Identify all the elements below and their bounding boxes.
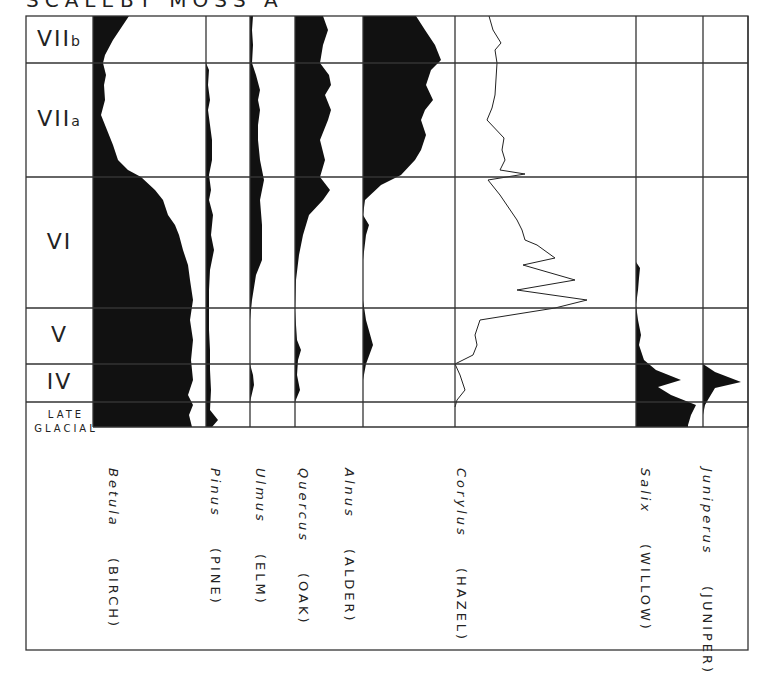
taxon-label-corylus: Corylus(HAZEL) xyxy=(454,468,469,642)
curve-pinus xyxy=(206,16,218,427)
taxon-label-pinus: Pinus(PINE) xyxy=(208,468,223,605)
taxon-label-salix: Salix(WILLOW) xyxy=(638,468,653,632)
zone-label-v: V xyxy=(26,322,93,347)
curve-juniperus xyxy=(703,16,741,427)
taxon-label-ulmus: Ulmus(ELM) xyxy=(253,468,268,606)
curve-ulmus xyxy=(250,16,264,427)
taxon-label-juniperus: Juniperus(JUNIPER) xyxy=(700,468,715,675)
zone-label-viia: VIIa xyxy=(26,106,93,131)
zone-label-viib: VIIb xyxy=(26,26,93,51)
zone-label-late-glacial: LATEGLACIAL xyxy=(26,408,106,436)
curve-quercus xyxy=(295,16,331,427)
curve-corylus xyxy=(455,16,587,407)
curve-salix xyxy=(636,16,696,427)
taxon-label-alnus: Alnus(ALDER) xyxy=(342,468,357,623)
zone-label-iv: IV xyxy=(26,369,93,394)
curve-alnus xyxy=(363,16,441,427)
taxon-label-quercus: Quercus(OAK) xyxy=(296,468,311,626)
zone-label-vi: VI xyxy=(26,229,93,254)
curve-betula xyxy=(93,16,193,427)
taxon-label-betula: Betula(BIRCH) xyxy=(106,468,121,629)
